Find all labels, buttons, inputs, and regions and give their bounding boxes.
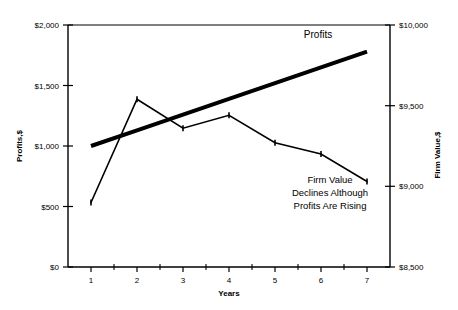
x-axis-major-ticks: [91, 267, 367, 272]
left-tick-label-1500: $1,500: [35, 82, 60, 91]
left-tick-label-1000: $1,000: [35, 142, 60, 151]
chart-container: $2,000 $1,500 $1,000 $500 $0 $10,000 $9,…: [0, 0, 458, 310]
right-tick-label-9500: $9,500: [399, 102, 424, 111]
x-axis-title: Years: [218, 289, 240, 298]
profits-series-label: Profits: [304, 29, 332, 40]
profits-polyline: [91, 52, 367, 146]
left-axis-tick-labels: $2,000 $1,500 $1,000 $500 $0: [35, 21, 60, 272]
right-axis-tick-labels: $10,000 $9,500 $9,000 $8,500: [399, 21, 428, 272]
left-axis-title: Profits,$: [15, 129, 24, 162]
firm-value-note-line-2: Declines Although: [292, 187, 368, 198]
left-tick-label-0: $0: [50, 263, 59, 272]
dual-axis-line-chart: $2,000 $1,500 $1,000 $500 $0 $10,000 $9,…: [0, 0, 458, 310]
x-tick-label-3: 3: [181, 276, 186, 285]
x-tick-label-2: 2: [135, 276, 140, 285]
series-profits: [91, 52, 367, 146]
right-tick-label-10000: $10,000: [399, 21, 428, 30]
right-tick-label-9000: $9,000: [399, 182, 424, 191]
right-tick-label-8500: $8,500: [399, 263, 424, 272]
left-tick-label-500: $500: [41, 203, 59, 212]
x-tick-label-6: 6: [319, 276, 324, 285]
right-axis-title: Firm Value,$: [433, 131, 442, 179]
x-tick-label-4: 4: [227, 276, 232, 285]
x-tick-label-7: 7: [365, 276, 370, 285]
firm-value-note-line-3: Profits Are Rising: [294, 200, 367, 211]
left-tick-label-2000: $2,000: [35, 21, 60, 30]
firm-value-note-line-1: Firm Value: [307, 174, 352, 185]
x-tick-label-5: 5: [273, 276, 278, 285]
firm-value-note: Firm Value Declines Although Profits Are…: [292, 174, 368, 211]
x-axis-tick-labels: 1 2 3 4 5 6 7: [89, 276, 370, 285]
x-tick-label-1: 1: [89, 276, 94, 285]
